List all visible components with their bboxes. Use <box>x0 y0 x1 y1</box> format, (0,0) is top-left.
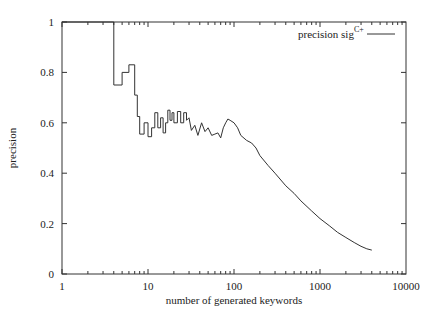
x-tick-label: 1 <box>59 280 65 292</box>
precision-chart: 11010010001000000.20.40.60.81 number of … <box>0 0 438 320</box>
precision-line <box>62 22 372 250</box>
y-tick-label: 0 <box>49 268 55 280</box>
y-tick-label: 1 <box>49 16 55 28</box>
x-tick-label: 10 <box>143 280 155 292</box>
y-axis-label: precision <box>6 127 18 168</box>
y-tick-label: 0.8 <box>40 66 54 78</box>
x-axis-label: number of generated keywords <box>166 294 303 306</box>
y-tick-label: 0.4 <box>40 167 54 179</box>
legend-label: precision sigC+ <box>298 25 364 40</box>
x-tick-label: 100 <box>226 280 243 292</box>
x-tick-label: 1000 <box>309 280 332 292</box>
y-tick-label: 0.2 <box>40 218 54 230</box>
legend: precision sigC+ <box>298 25 395 40</box>
axis-tick-labels: 11010010001000000.20.40.60.81 <box>40 16 420 292</box>
y-tick-label: 0.6 <box>40 117 54 129</box>
x-tick-label: 10000 <box>392 280 420 292</box>
